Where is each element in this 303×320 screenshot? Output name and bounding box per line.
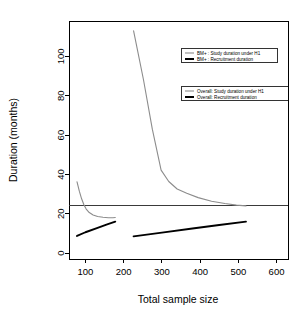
series-line-overall-recruit xyxy=(134,222,246,237)
x-tick-label-600: 600 xyxy=(269,266,285,277)
y-tick-label-0: 0 xyxy=(55,250,66,255)
x-tick-label-300: 300 xyxy=(154,266,170,277)
y-tick-label-80: 80 xyxy=(55,90,66,101)
x-axis-ticks: 100200300400500600 xyxy=(78,259,285,277)
legend-bmplus: BM+ : Study duration under H1BM+ : Recru… xyxy=(181,48,277,62)
y-tick-label-100: 100 xyxy=(55,48,66,64)
x-tick-label-500: 500 xyxy=(230,266,246,277)
chart-container: 100200300400500600 020406080100 BM+ : St… xyxy=(0,0,303,320)
legend-overall: Overall: Study duration under H1Overall:… xyxy=(181,86,288,100)
y-tick-label-20: 20 xyxy=(55,208,66,219)
y-tick-label-40: 40 xyxy=(55,169,66,180)
legend-overall-label-1: Overall: Recruitment duration xyxy=(197,95,257,100)
series-line-bmplus-study xyxy=(77,182,115,218)
legend-group: BM+ : Study duration under H1BM+ : Recru… xyxy=(181,48,288,100)
y-tick-label-60: 60 xyxy=(55,130,66,141)
legend-overall-label-0: Overall: Study duration under H1 xyxy=(197,89,264,94)
legend-bmplus-label-0: BM+ : Study duration under H1 xyxy=(197,51,261,56)
x-tick-label-100: 100 xyxy=(78,266,94,277)
x-axis-title: Total sample size xyxy=(138,293,219,305)
legend-bmplus-label-1: BM+ : Recruitment duration xyxy=(197,57,253,62)
x-tick-label-200: 200 xyxy=(116,266,132,277)
series-line-bmplus-recruit xyxy=(77,222,115,236)
duration-vs-sample-size-chart: 100200300400500600 020406080100 BM+ : St… xyxy=(0,0,303,320)
y-axis-title: Duration (months) xyxy=(7,98,19,182)
x-tick-label-400: 400 xyxy=(192,266,208,277)
y-axis-ticks: 020406080100 xyxy=(55,48,69,255)
